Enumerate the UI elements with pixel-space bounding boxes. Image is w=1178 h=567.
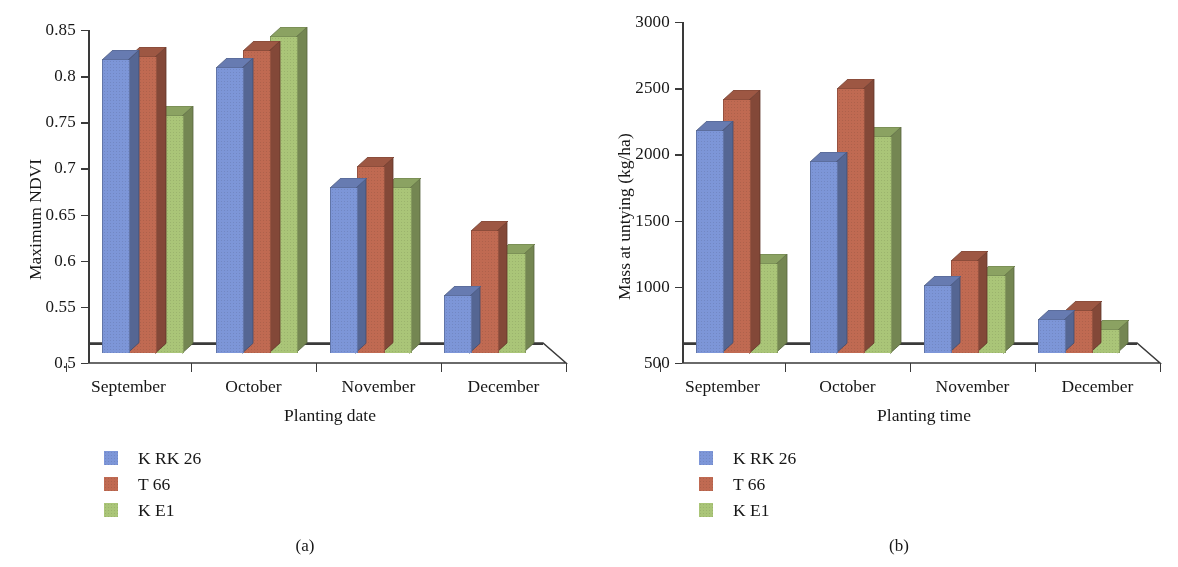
y-axis-tick-label: 0.55: [10, 298, 76, 315]
bar-texture-overlay: [331, 188, 357, 353]
y-axis-tick: [81, 122, 88, 123]
legend-swatch-k-e1: [104, 503, 118, 517]
legend-swatch-texture: [699, 451, 713, 465]
y-axis-tick-label: 0.8: [10, 67, 76, 84]
y-axis-tick-label: 3000: [604, 13, 670, 30]
x-axis-tick: [316, 363, 317, 372]
y-axis-tick: [675, 221, 682, 222]
bar-texture-overlay: [811, 162, 837, 353]
panel-caption-a: (a): [245, 536, 365, 555]
bar-texture-overlay: [697, 131, 723, 353]
bar-texture-overlay: [1039, 320, 1065, 353]
bar-front-face: [102, 60, 130, 353]
bar-front-face: [1038, 320, 1066, 353]
bar-k-rk-26-september: [102, 50, 128, 353]
y-axis-title-b: Mass at untying (kg/ha): [615, 133, 634, 300]
x-axis-tick-label: December: [1005, 377, 1178, 396]
legend-swatch-texture: [699, 477, 713, 491]
bar-k-rk-26-november: [330, 178, 356, 353]
bar-k-rk-26-october: [216, 58, 242, 353]
bar-front-face: [696, 131, 724, 353]
x-axis-tick: [1035, 363, 1036, 372]
x-axis-tick: [1160, 363, 1161, 372]
legend-label: K E1: [733, 499, 769, 521]
panel-b: 50010001500200025003000SeptemberOctoberN…: [589, 0, 1178, 567]
bar-texture-overlay: [217, 68, 243, 353]
legend-label: T 66: [733, 473, 765, 495]
panel-caption-b: (b): [839, 536, 959, 555]
legend-label: K RK 26: [733, 447, 796, 469]
y-axis-tick: [81, 363, 88, 364]
y-axis-tick: [675, 154, 682, 155]
panel-a: 0.50.550.60.650.70.750.80.85SeptemberOct…: [0, 0, 589, 567]
y-axis-tick: [81, 307, 88, 308]
legend-swatch-texture: [104, 503, 118, 517]
bar-front-face: [924, 286, 952, 353]
y-axis-line: [88, 30, 90, 363]
bar-texture-overlay: [925, 286, 951, 353]
legend-swatch-k-rk-26: [699, 451, 713, 465]
x-axis-tick: [441, 363, 442, 372]
y-axis-tick: [675, 88, 682, 89]
legend-swatch-k-rk-26: [104, 451, 118, 465]
x-axis-title-b: Planting time: [724, 406, 1124, 425]
bar-texture-overlay: [445, 296, 471, 353]
figure-two-panel-bar-charts: 0.50.550.60.650.70.750.80.85SeptemberOct…: [0, 0, 1178, 567]
y-axis-tick: [81, 168, 88, 169]
bar-front-face: [810, 162, 838, 353]
bar-front-face: [330, 188, 358, 353]
y-axis-tick: [81, 261, 88, 262]
y-axis-tick: [675, 22, 682, 23]
x-axis-tick: [660, 363, 661, 372]
y-axis-tick-label: 2500: [604, 79, 670, 96]
y-axis-tick: [81, 215, 88, 216]
y-axis-tick: [675, 363, 682, 364]
bar-k-rk-26-september: [696, 121, 722, 353]
legend-label: K RK 26: [138, 447, 201, 469]
y-axis-tick: [675, 287, 682, 288]
y-axis-tick-label: 0.85: [10, 21, 76, 38]
y-axis-tick-label: 0.75: [10, 113, 76, 130]
legend-swatch-texture: [699, 503, 713, 517]
y-axis-title-a: Maximum NDVI: [26, 159, 45, 280]
legend-label: T 66: [138, 473, 170, 495]
bar-k-rk-26-december: [444, 286, 470, 353]
x-axis-tick: [566, 363, 567, 372]
plot-area-a: 0.50.550.60.650.70.750.80.85SeptemberOct…: [88, 30, 558, 377]
legend-swatch-texture: [104, 451, 118, 465]
legend-swatch-texture: [104, 477, 118, 491]
legend-swatch-t-66: [104, 477, 118, 491]
bar-k-rk-26-october: [810, 152, 836, 353]
legend-swatch-t-66: [699, 477, 713, 491]
y-axis-tick: [81, 30, 88, 31]
bar-k-rk-26-december: [1038, 310, 1064, 353]
x-axis-title-a: Planting date: [130, 406, 530, 425]
bar-texture-overlay: [103, 60, 129, 353]
legend-label: K E1: [138, 499, 174, 521]
x-axis-tick: [66, 363, 67, 372]
x-axis-tick: [910, 363, 911, 372]
legend-swatch-k-e1: [699, 503, 713, 517]
bar-front-face: [216, 68, 244, 353]
plot-area-b: 50010001500200025003000SeptemberOctoberN…: [682, 22, 1152, 377]
bar-k-rk-26-november: [924, 276, 950, 353]
bar-front-face: [444, 296, 472, 353]
y-axis-line: [682, 22, 684, 363]
y-axis-tick: [81, 76, 88, 77]
x-axis-tick-label: December: [411, 377, 596, 396]
